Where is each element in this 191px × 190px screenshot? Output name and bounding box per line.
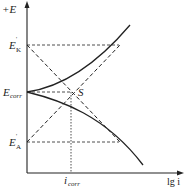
- y-axis-arrow-icon: [25, 1, 30, 8]
- svg-text:corr: corr: [68, 180, 80, 188]
- svg-text:': ': [16, 133, 17, 139]
- icorr-label: i corr: [64, 174, 80, 188]
- x-axis-arrow-icon: [177, 171, 184, 176]
- ek-label: E ' K: [8, 36, 21, 54]
- cathodic-polarization-curve: [27, 92, 143, 165]
- x-axis-label: lg i: [167, 176, 180, 187]
- ecorr-label: E corr: [2, 86, 22, 100]
- evans-diagram: +E E ' K E corr E ' A S i corr lg i: [0, 0, 191, 190]
- ea-label: E ' A: [8, 133, 21, 151]
- svg-text:E: E: [8, 39, 16, 51]
- svg-text:': ': [16, 36, 17, 42]
- svg-text:A: A: [16, 143, 21, 151]
- svg-text:E: E: [2, 86, 10, 98]
- svg-text:corr: corr: [10, 92, 22, 100]
- anodic-polarization-curve: [27, 25, 130, 92]
- svg-text:K: K: [16, 46, 21, 54]
- y-axis-label: +E: [2, 3, 16, 15]
- intersection-label: S: [78, 86, 84, 98]
- svg-text:E: E: [8, 136, 16, 148]
- svg-text:i: i: [64, 174, 67, 186]
